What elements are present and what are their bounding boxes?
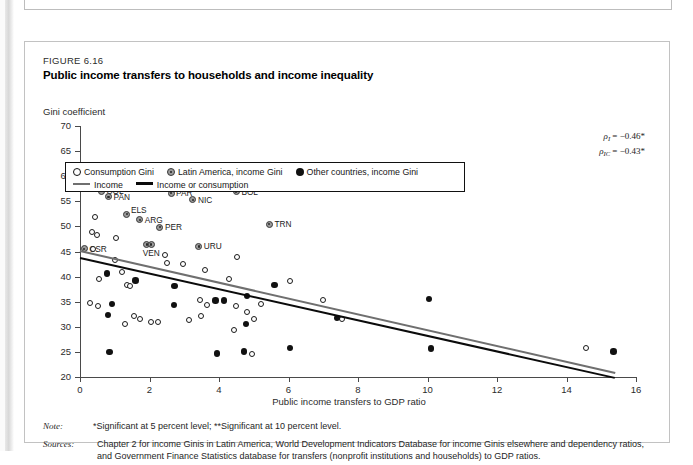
scatter-point [221,297,227,303]
scatter-point [131,313,137,319]
scatter-point [258,301,264,307]
scatter-point [244,309,250,315]
y-tick-mark [75,277,81,278]
x-tick-label: 8 [343,384,373,395]
legend-item-latin-america: Latin America, income Gini [167,167,283,177]
legend-label-income-or-consumption: Income or consumption [157,180,248,190]
scatter-point [96,276,102,282]
point-label: NIC [198,195,212,205]
scatter-point [226,276,232,282]
trendline [80,257,616,379]
scatter-point [171,302,177,308]
legend-label-latin-america: Latin America, income Gini [178,167,283,177]
x-tick-label: 4 [204,384,234,395]
scatter-point [106,349,112,355]
x-tick-mark [636,377,637,382]
x-tick-mark [358,377,359,382]
scatter-point [202,267,208,273]
y-tick-mark [75,352,81,353]
point-label: ELS [131,205,147,215]
scatter-point [171,283,177,289]
page-edge [0,0,5,451]
scatter-point [214,350,220,356]
figure-footnotes: Note: *Significant at 5 percent level; *… [43,420,653,465]
scatter-point [271,282,277,288]
scatter-point [198,313,204,319]
x-tick-mark [497,377,498,382]
y-tick-mark [75,151,81,152]
scatter-point [119,269,125,275]
rho-income-value: = −0.46* [612,131,645,141]
x-tick-label: 6 [274,384,304,395]
scatter-point [233,303,239,309]
legend-item-income-line: Income [73,180,123,190]
note-text: *Significant at 5 percent level; **Signi… [93,421,341,431]
x-tick-label: 10 [413,384,443,395]
legend-label-consumption: Consumption Gini [84,167,154,177]
scatter-point [137,316,143,322]
scatter-point [243,321,249,327]
scatter-point [212,297,218,303]
scatter-point [94,232,100,238]
x-tick-mark [289,377,290,382]
figure-container: FIGURE 6.16 Public income transfers to h… [24,41,670,443]
legend-label-other: Other countries, income Gini [307,167,418,177]
chart-plot-area: 2025303540455055606570 0246810121416 GUA… [43,122,655,412]
x-tick-mark [567,377,568,382]
scatter-point [234,254,240,260]
chart-legend: Consumption GiniLatin America, income Gi… [65,162,465,192]
y-tick-label: 35 [45,296,71,307]
y-axis-caption: Gini coefficient [43,106,105,117]
legend-row-markers: Consumption GiniLatin America, income Gi… [73,167,431,177]
note-line: Note: *Significant at 5 percent level; *… [43,420,653,433]
note-label: Note: [43,420,63,433]
rho-income-subscript: I [608,135,610,142]
y-tick-mark [75,327,81,328]
x-tick-label: 14 [552,384,582,395]
scatter-point [148,241,155,248]
legend-row-lines: IncomeIncome or consumption [73,180,261,190]
scatter-point [195,243,202,250]
point-label: VEN [143,248,160,258]
scatter-point [122,321,128,327]
sources-line: Sources: Chapter 2 for income Ginis in L… [43,438,653,463]
scatter-point [105,193,112,200]
point-label: PER [165,222,182,232]
scatter-point [186,317,192,323]
rho-income-row: ρI = −0.46* [599,130,645,145]
scatter-point [320,297,326,303]
legend-label-income: Income [94,180,123,190]
scatter-point [287,278,293,284]
scatter-point [162,252,168,258]
x-tick-label: 2 [135,384,165,395]
scatter-point [123,211,130,218]
x-tick-mark [219,377,220,382]
legend-item-income-or-consumption-line: Income or consumption [136,180,248,190]
x-tick-label: 0 [65,384,95,395]
y-tick-label: 55 [45,195,71,206]
filled-circle-icon [296,168,304,176]
half-filled-circle-icon [167,168,175,176]
scatter-point [113,235,119,241]
x-tick-label: 12 [482,384,512,395]
scatter-point [104,270,110,276]
y-tick-label: 20 [45,371,71,382]
scatter-point [148,319,154,325]
scatter-point [109,301,115,307]
rho-ic-value: = −0.43* [612,146,645,156]
scatter-point [249,351,255,357]
y-tick-mark [75,226,81,227]
y-tick-label: 30 [45,321,71,332]
scatter-point [189,196,196,203]
scatter-point [92,214,98,220]
correlation-annotation: ρI = −0.46* ρIC = −0.43* [599,130,645,160]
scatter-point [197,297,203,303]
sources-label: Sources: [43,438,74,451]
y-tick-label: 50 [45,220,71,231]
scatter-point [583,345,589,351]
scatter-point [287,345,293,351]
scatter-point [266,221,273,228]
scatter-point [231,327,237,333]
scatter-point [610,348,616,354]
scatter-point [127,283,133,289]
